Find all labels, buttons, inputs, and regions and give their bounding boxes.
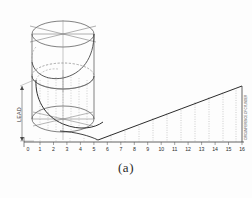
axis-tick-label: 16: [239, 146, 245, 152]
development-group: [40, 86, 242, 142]
axis-tick-label: 11: [172, 146, 177, 152]
lead-dimension-group: LEAD: [16, 80, 34, 141]
axis-tick-label: 10: [158, 146, 164, 152]
axis-tick-label: 9: [146, 146, 149, 152]
axis-tick-label: 7: [119, 146, 122, 152]
axis-origin-label: 0: [27, 146, 30, 152]
development-hypotenuse: [98, 86, 242, 140]
circumference-dimension-label: CIRCUMFERENCE OF CYLINDER: [244, 94, 248, 140]
axis-tick-label: 14: [212, 146, 218, 152]
axis-tick-label: 5: [93, 146, 96, 152]
figure-container: LEAD: [0, 0, 252, 198]
axis-tick-label: 6: [106, 146, 109, 152]
tick-label-group: 123456789101112131415160: [27, 142, 245, 152]
axis-tick-label: 12: [185, 146, 191, 152]
axis-tick-label: 4: [79, 146, 82, 152]
lead-arrow-bottom: [20, 137, 24, 141]
helix-upper-curve-hidden: [32, 47, 36, 62]
axis-tick-label: 3: [66, 146, 69, 152]
lead-arrow-top: [20, 86, 24, 90]
development-entry-curve: [60, 131, 98, 140]
lead-dimension-label: LEAD: [16, 107, 22, 122]
lower-cylinder-group: [32, 63, 103, 140]
axis-tick-label: 8: [133, 146, 136, 152]
axis-tick-label: 13: [199, 146, 205, 152]
axis-tick-label: 15: [226, 146, 232, 152]
axis-tick-label: 1: [39, 146, 42, 152]
figure-caption: (a): [0, 160, 252, 176]
axis-tick-label: 2: [52, 146, 55, 152]
